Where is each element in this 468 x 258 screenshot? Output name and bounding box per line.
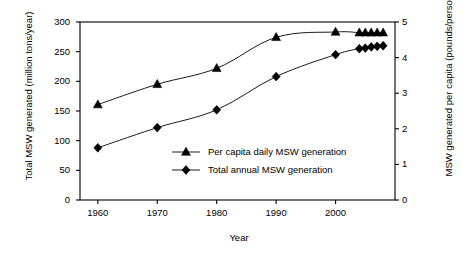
data-series (93, 27, 387, 152)
y-axis-left-tick-label: 0 (40, 194, 70, 205)
y-axis-right-tick-label: 4 (402, 52, 432, 63)
y-axis-right-tick-label: 2 (402, 123, 432, 134)
y-axis-left-tick-label: 100 (40, 135, 70, 146)
y-axis-left-tick-label: 250 (40, 46, 70, 57)
x-axis-tick-label: 1980 (197, 207, 237, 218)
y-axis-left-tick-label: 300 (40, 16, 70, 27)
y-axis-right-tick-label: 3 (402, 87, 432, 98)
x-axis-tick-label: 1990 (256, 207, 296, 218)
y-axis-left-tick-label: 200 (40, 75, 70, 86)
y-axis-right-title: MSW generated per capita (pounds/person/… (443, 27, 454, 177)
chart-figure: Total MSW generated (million tons/year) … (0, 0, 468, 258)
x-axis-title: Year (159, 232, 319, 243)
x-axis-tick-label: 1960 (78, 207, 118, 218)
y-axis-left-title: Total MSW generated (million tons/year) (23, 31, 34, 181)
y-axis-right-tick-label: 5 (402, 16, 432, 27)
y-axis-right-tick-label: 1 (402, 158, 432, 169)
y-axis-right-tick-label: 0 (402, 194, 432, 205)
chart-plot-area (0, 0, 468, 258)
y-axis-left-tick-label: 150 (40, 105, 70, 116)
legend-markers (172, 147, 200, 174)
x-axis-tick-label: 2000 (316, 207, 356, 218)
legend-item-label: Per capita daily MSW generation (208, 146, 346, 157)
y-axis-left-tick-label: 50 (40, 164, 70, 175)
x-axis-tick-label: 1970 (137, 207, 177, 218)
legend-item-label: Total annual MSW generation (208, 164, 333, 175)
axis-ticks (76, 22, 399, 204)
